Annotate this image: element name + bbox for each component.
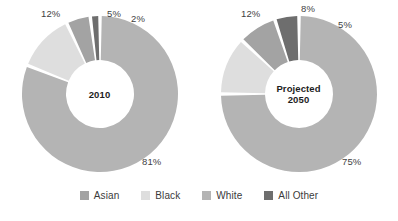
pct-label-all-other-2010: 2%	[131, 13, 145, 24]
legend-swatch-icon	[202, 191, 211, 200]
legend-item-white[interactable]: White	[202, 190, 242, 201]
pct-label-all-other-2050: 5%	[338, 19, 352, 30]
dual-donut-chart-figure: 2010 12% 5% 2% 81% Projected2050 12% 8% …	[0, 0, 398, 221]
legend-label: Black	[155, 190, 180, 201]
donut-chart-2010: 2010 12% 5% 2% 81%	[0, 0, 199, 188]
legend-item-black[interactable]: Black	[141, 190, 180, 201]
pct-label-black-2050: 12%	[241, 8, 260, 19]
legend-swatch-icon	[141, 191, 150, 200]
pct-label-black-2010: 12%	[41, 8, 60, 19]
charts-row: 2010 12% 5% 2% 81% Projected2050 12% 8% …	[0, 0, 398, 188]
pct-label-asian-2010: 5%	[107, 8, 121, 19]
pct-label-white-2050: 75%	[342, 156, 361, 167]
legend-label: White	[216, 190, 242, 201]
pct-label-white-2010: 81%	[142, 156, 161, 167]
chart-legend: AsianBlackWhiteAll Other	[0, 190, 398, 212]
legend-swatch-icon	[80, 191, 89, 200]
pct-label-asian-2050: 8%	[301, 3, 315, 14]
legend-label: All Other	[278, 190, 318, 201]
legend-label: Asian	[94, 190, 120, 201]
donut-svg-2050	[219, 14, 379, 174]
legend-swatch-icon	[264, 191, 273, 200]
legend-item-all-other[interactable]: All Other	[264, 190, 318, 201]
donut-svg-2010	[20, 14, 180, 174]
legend-item-asian[interactable]: Asian	[80, 190, 120, 201]
donut-chart-2050: Projected2050 12% 8% 5% 75%	[199, 0, 398, 188]
